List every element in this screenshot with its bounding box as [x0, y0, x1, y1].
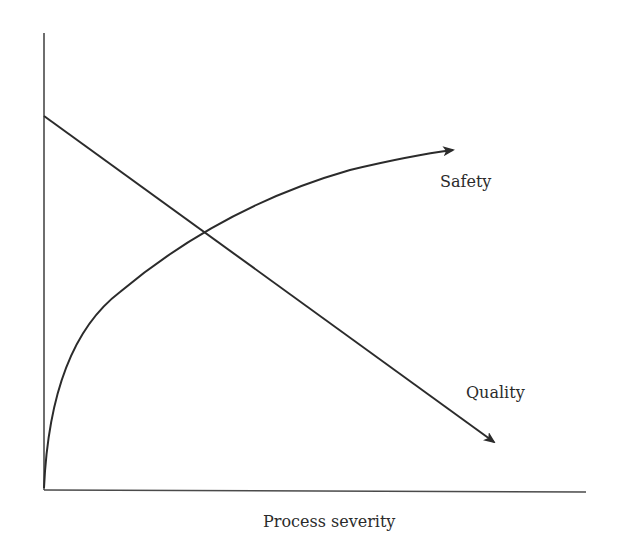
chart-canvas: Safety Quality Process severity: [0, 0, 618, 549]
x-axis: [44, 490, 586, 492]
safety-curve: [44, 150, 453, 488]
quality-label: Quality: [466, 383, 525, 402]
safety-label: Safety: [440, 172, 491, 191]
quality-line: [44, 116, 494, 442]
x-axis-label: Process severity: [263, 512, 395, 531]
